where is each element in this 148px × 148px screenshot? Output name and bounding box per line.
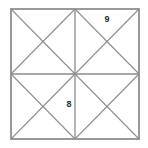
geometry-figure-canvas: 9 8	[0, 0, 148, 148]
quadrant-label-8: 8	[66, 99, 71, 109]
square-quadrant-diagram: 9 8	[0, 0, 148, 148]
quadrant-label-9: 9	[104, 14, 109, 24]
